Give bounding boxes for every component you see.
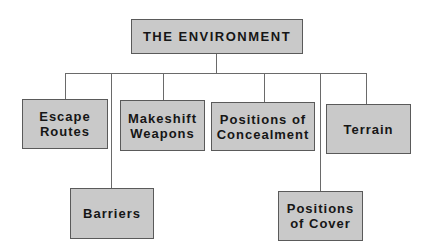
root-node: THE ENVIRONMENT [131,19,303,54]
node-label-line: of Cover [287,216,355,231]
connector-makeshift-weapons [163,73,164,100]
node-positions-of-concealment: Positions of Concealment [211,102,315,151]
node-label-line: Positions of [217,112,310,127]
node-makeshift-weapons: Makeshift Weapons [120,100,205,151]
node-label-line: Makeshift [128,111,197,126]
node-positions-of-cover: Positions of Cover [278,191,363,241]
node-barriers: Barriers [70,188,154,239]
node-label-line: Concealment [217,127,310,142]
connector-barriers [111,73,112,188]
node-label-line: Barriers [83,206,141,221]
connector-positions-of-cover [320,73,321,191]
node-label-line: Routes [39,124,91,139]
root-label: THE ENVIRONMENT [143,29,291,44]
node-escape-routes: Escape Routes [22,99,108,149]
connector-escape-routes [65,73,66,99]
node-label-line: Positions [287,201,355,216]
node-terrain: Terrain [326,104,411,154]
connector-positions-of-concealment [264,73,265,102]
root-connector [216,53,217,74]
connector-terrain [366,73,367,104]
node-label-line: Escape [39,109,91,124]
node-label-line: Terrain [343,122,393,137]
node-label-line: Weapons [128,126,197,141]
